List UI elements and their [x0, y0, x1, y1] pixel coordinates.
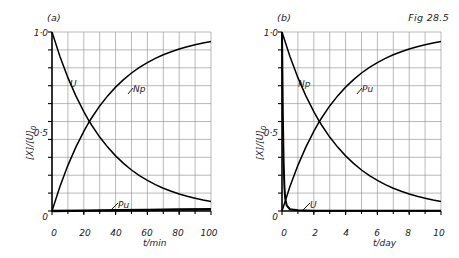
chart-panel-a: (a) [X]/[U]0 1·0 0·5 0 0 20 40 60 80 100…	[0, 0, 229, 258]
figure-28-5: Fig 28.5 (a) [X]/[U]0 1·0 0·5 0 0 20 40 …	[0, 0, 459, 258]
plot-ticks-b	[278, 32, 441, 215]
plot-svg-b	[230, 0, 459, 258]
plot-grid-a	[52, 32, 211, 211]
plot-ticks-a	[48, 32, 211, 215]
leader-line-a-np	[128, 88, 133, 94]
plot-grid-b	[282, 32, 441, 211]
chart-panel-b: (b) [X]/[U]0 1·0 0·5 0 0 2 4 6 8 10 t/da…	[230, 0, 459, 258]
plot-svg-a	[0, 0, 229, 258]
